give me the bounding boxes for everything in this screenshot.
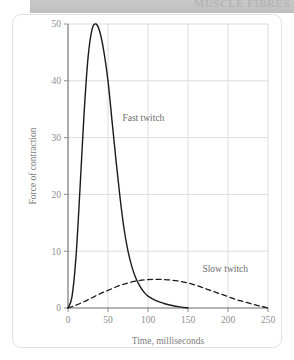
x-axis-tick-labels: 050100150200250: [66, 315, 276, 325]
x-axis-tick-label: 250: [261, 315, 276, 325]
x-axis-tick-label: 50: [103, 315, 113, 325]
x-axis-tick-label: 200: [221, 315, 236, 325]
y-axis-tick-label: 40: [52, 76, 62, 86]
x-axis-title: Time, milliseconds: [132, 336, 205, 346]
y-axis-tick-label: 10: [52, 247, 62, 257]
y-axis-tick-label: 0: [56, 303, 61, 313]
y-axis-tick-label: 30: [52, 133, 62, 143]
x-axis-tick-label: 150: [181, 315, 196, 325]
y-axis-tick-labels: 01020304050: [52, 19, 62, 313]
x-axis-tick-label: 100: [141, 315, 156, 325]
x-axis-tick-label: 0: [66, 315, 71, 325]
series-label-slow-twitch: Slow twitch: [202, 264, 248, 274]
series-line-fast-twitch: [68, 24, 188, 308]
series-labels-group: Fast twitchSlow twitch: [122, 113, 248, 274]
y-axis-tick-label: 50: [52, 19, 62, 29]
series-label-fast-twitch: Fast twitch: [122, 113, 164, 123]
series-line-slow-twitch: [68, 279, 268, 308]
y-axis-tick-label: 20: [52, 190, 62, 200]
chart-svg: 01020304050 050100150200250 Fast twitchS…: [0, 0, 294, 360]
twitch-force-chart: 01020304050 050100150200250 Fast twitchS…: [0, 0, 294, 360]
y-axis-title: Force of contraction: [28, 127, 38, 204]
